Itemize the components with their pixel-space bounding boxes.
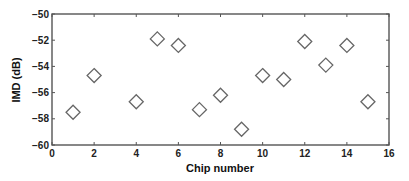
plot-frame (52, 14, 389, 145)
diamond-marker (319, 58, 333, 72)
x-axis: 0246810121416 (49, 14, 395, 159)
diamond-marker (150, 32, 164, 46)
x-tick-label: 6 (176, 148, 182, 159)
y-tick-label: −58 (32, 113, 49, 124)
y-tick-label: −60 (32, 140, 49, 151)
x-tick-label: 10 (257, 148, 269, 159)
data-markers (66, 32, 375, 136)
y-axis: −60−58−56−54−52−50 (32, 9, 389, 151)
y-tick-label: −56 (32, 87, 49, 98)
diamond-marker (87, 69, 101, 83)
y-tick-label: −52 (32, 35, 49, 46)
diamond-marker (277, 73, 291, 87)
y-tick-label: −50 (32, 9, 49, 20)
diamond-marker (171, 38, 185, 52)
x-tick-label: 12 (299, 148, 311, 159)
diamond-marker (214, 88, 228, 102)
diamond-marker (192, 103, 206, 117)
diamond-marker (256, 69, 270, 83)
diamond-marker (298, 35, 312, 49)
plot-area (52, 14, 389, 145)
x-tick-label: 4 (133, 148, 139, 159)
y-axis-label: IMD (dB) (10, 57, 22, 103)
diamond-marker (361, 95, 375, 109)
diamond-marker (235, 122, 249, 136)
scatter-chart: 0246810121416 −60−58−56−54−52−50 Chip nu… (0, 0, 409, 181)
x-tick-label: 8 (218, 148, 224, 159)
x-tick-label: 0 (49, 148, 55, 159)
y-tick-label: −54 (32, 61, 49, 72)
x-tick-label: 16 (383, 148, 395, 159)
x-tick-label: 14 (341, 148, 353, 159)
diamond-marker (129, 95, 143, 109)
x-tick-label: 2 (91, 148, 97, 159)
x-axis-label: Chip number (186, 162, 255, 174)
diamond-marker (340, 38, 354, 52)
diamond-marker (66, 105, 80, 119)
